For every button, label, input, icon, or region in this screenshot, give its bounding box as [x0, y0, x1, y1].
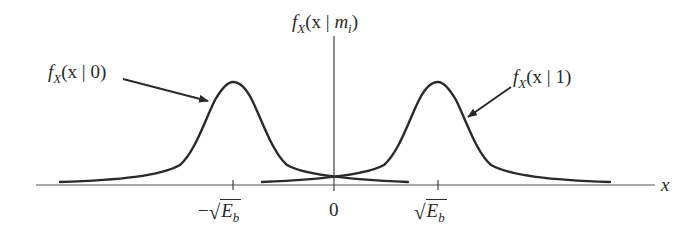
func-subscript: X — [297, 21, 305, 36]
arrow-to-right-curve — [468, 87, 511, 117]
tick-label-zero: 0 — [329, 200, 339, 219]
y-axis-title: fX(x | mi) — [292, 12, 358, 31]
likelihood-diagram: fX(x | mi) fX(x | 0) fX(x | 1) x −√Eb 0 … — [0, 0, 696, 248]
given-bar: | — [326, 11, 330, 32]
energy-symbol: E — [221, 200, 233, 221]
sqrt-expression: √Eb — [414, 200, 447, 221]
arrow-to-left-curve — [123, 79, 208, 101]
sqrt-expression: √Eb — [209, 200, 242, 221]
open-paren: (x — [526, 66, 542, 87]
arg-subscript: i — [348, 21, 352, 36]
curve-f-x-given-1 — [262, 82, 610, 182]
close-paren: ) — [352, 11, 358, 32]
arg: 1 — [555, 66, 565, 87]
left-curve-label: fX(x | 0) — [48, 62, 106, 81]
diagram-graphics — [0, 0, 696, 248]
x-axis-label: x — [661, 175, 669, 194]
tick-label-pos-sqrt-eb: √Eb — [414, 200, 447, 221]
tick-label-neg-sqrt-eb: −√Eb — [198, 200, 241, 221]
radical-icon: √ — [414, 200, 426, 224]
func-subscript: X — [53, 71, 61, 86]
open-paren: (x — [61, 61, 77, 82]
given-bar: | — [547, 66, 551, 87]
given-bar: | — [82, 61, 86, 82]
func-subscript: X — [518, 76, 526, 91]
right-curve-label: fX(x | 1) — [513, 67, 571, 86]
close-paren: ) — [565, 66, 571, 87]
arg: 0 — [90, 61, 100, 82]
open-paren: (x — [305, 11, 321, 32]
close-paren: ) — [100, 61, 106, 82]
energy-symbol: E — [427, 200, 439, 221]
energy-subscript: b — [233, 210, 240, 225]
minus-sign: − — [198, 200, 209, 221]
energy-subscript: b — [438, 210, 445, 225]
arg: m — [334, 11, 348, 32]
radical-icon: √ — [209, 200, 221, 224]
curve-f-x-given-0 — [60, 82, 408, 182]
